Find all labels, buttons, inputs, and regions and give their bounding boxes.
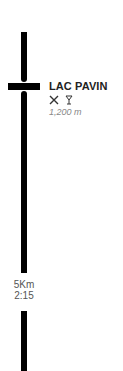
stop-elevation: 1,200 m [49,107,82,117]
segment-distance: 5Km [0,279,48,290]
route-line-bottom [21,311,27,371]
route-line-top [21,32,27,82]
stop-name: LAC PAVIN [49,80,108,92]
restaurant-icon [49,95,59,107]
bar-icon [65,95,73,107]
segment-info: 5Km 2:15 [0,279,48,301]
stop-amenities [49,95,73,107]
route-line-middle [21,91,27,273]
segment-duration: 2:15 [0,290,48,301]
stop-marker [8,83,40,90]
